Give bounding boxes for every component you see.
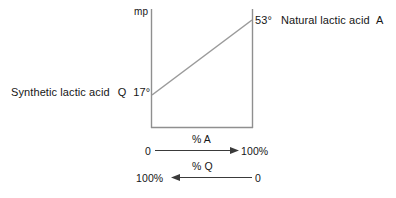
scale-a-end-tick: 100% [241, 145, 268, 157]
scale-q-label: % Q [192, 160, 213, 172]
scale-a-label: % A [192, 133, 211, 145]
scale-a-start-tick: 0 [145, 145, 151, 157]
scale-q-start-tick: 0 [255, 172, 261, 184]
scale-q-arrowhead-icon [171, 174, 180, 181]
lactic-acid-melting-point-diagram: mp 53°Natural lactic acid A Synthetic la… [0, 0, 396, 198]
melting-point-line [152, 20, 252, 95]
natural-lactic-acid-name: Natural lactic acid [281, 14, 370, 26]
synthetic-lactic-acid-name: Synthetic lactic acid [11, 86, 110, 98]
natural-lactic-acid-symbol: A [376, 14, 383, 26]
synthetic-lactic-acid-annotation: Synthetic lactic acidQ17° [11, 86, 150, 98]
scale-q-end-tick: 100% [136, 172, 163, 184]
natural-lactic-acid-annotation: 53°Natural lactic acid A [255, 14, 383, 26]
scale-a-arrowhead-icon [230, 147, 239, 154]
synthetic-lactic-acid-symbol: Q [118, 86, 127, 98]
synthetic-melting-point-value: 17° [133, 86, 150, 98]
y-axis-label: mp [134, 6, 148, 18]
natural-melting-point-value: 53° [255, 14, 272, 26]
